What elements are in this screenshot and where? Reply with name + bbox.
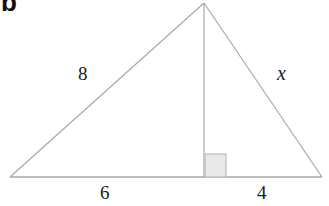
triangle-diagram (0, 0, 329, 206)
figure-container: b 8 x 6 4 (0, 0, 329, 206)
right-angle-marker-icon (205, 154, 226, 177)
label-base-right-segment: 4 (257, 183, 267, 202)
label-base-left-segment: 6 (100, 183, 110, 202)
label-left-side: 8 (78, 64, 88, 83)
triangle-right-side (204, 3, 322, 177)
label-right-side: x (277, 63, 286, 83)
triangle-left-side (10, 3, 204, 177)
